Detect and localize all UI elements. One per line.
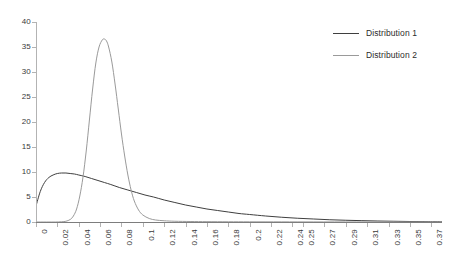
x-axis-tick [346,223,347,227]
x-axis-tick-label: 0.31 [371,229,380,245]
x-axis-tick-label: 0.35 [414,229,423,245]
x-axis-tick-label: 0.06 [104,229,113,245]
series-line-1 [36,173,442,222]
y-axis-line [36,22,37,222]
x-axis-tick-label: 0.02 [61,229,70,245]
legend-swatch-distribution-2 [333,55,359,56]
x-axis-tick-label: 0.08 [125,229,134,245]
x-axis-tick-label: 0.1 [147,229,156,241]
x-axis-tick-label: 0.12 [168,229,177,245]
x-axis-tick [250,223,251,227]
x-axis-tick [121,223,122,227]
y-axis-tick-label: 35 [3,42,31,51]
y-axis-tick [32,72,36,73]
x-axis-tick-label: 0.04 [83,229,92,245]
x-axis-tick-label: 0.2 [254,229,263,241]
x-axis-tick [303,223,304,227]
y-axis-tick-label: 25 [3,92,31,101]
x-axis-line [36,222,442,223]
x-axis-tick [164,223,165,227]
x-axis-tick-label: 0.24 [296,229,305,245]
x-axis-tick [431,223,432,227]
y-axis-tick [32,97,36,98]
y-axis-tick [32,122,36,123]
x-axis-tick [228,223,229,227]
legend-label-distribution-1: Distribution 1 [366,28,417,38]
x-axis-tick [100,223,101,227]
y-axis-tick [32,172,36,173]
y-axis-tick [32,147,36,148]
x-axis-tick [292,223,293,227]
y-axis-tick-label: 15 [3,142,31,151]
x-axis-tick-label: 0.33 [393,229,402,245]
x-axis-tick-label: 0 [40,229,49,234]
y-axis-tick [32,22,36,23]
legend-swatch-distribution-1 [333,33,359,34]
legend-item: Distribution 2 [333,44,451,66]
chart-legend: Distribution 1 Distribution 2 [333,22,451,66]
x-axis-tick [324,223,325,227]
x-axis-tick [57,223,58,227]
x-axis-tick-label: 0.18 [232,229,241,245]
y-axis-tick-labels: 0510152025303540 [0,0,31,269]
y-axis-tick-label: 0 [3,217,31,226]
x-axis-tick [367,223,368,227]
y-axis-tick-label: 40 [3,17,31,26]
y-axis-tick [32,197,36,198]
x-axis-tick [410,223,411,227]
x-axis-tick [186,223,187,227]
x-axis-tick [36,223,37,227]
x-axis-tick-label: 0.37 [435,229,444,245]
y-axis-tick-label: 5 [3,192,31,201]
x-axis-tick-label: 0.29 [350,229,359,245]
y-axis-tick [32,47,36,48]
y-axis-tick-label: 20 [3,117,31,126]
distribution-comparison-chart: 0510152025303540 00.020.040.060.080.10.1… [0,0,451,269]
x-axis-tick [143,223,144,227]
x-axis-tick [389,223,390,227]
y-axis-tick-label: 30 [3,67,31,76]
x-axis-tick [207,223,208,227]
y-axis-tick-label: 10 [3,167,31,176]
x-axis-tick [271,223,272,227]
x-axis-tick [79,223,80,227]
x-axis-tick-label: 0.27 [328,229,337,245]
x-axis-tick-label: 0.22 [275,229,284,245]
x-axis-tick-label: 0.25 [307,229,316,245]
legend-label-distribution-2: Distribution 2 [366,50,417,60]
x-axis-tick-label: 0.14 [190,229,199,245]
x-axis-tick-label: 0.16 [211,229,220,245]
legend-item: Distribution 1 [333,22,451,44]
series-line-2 [36,39,442,222]
